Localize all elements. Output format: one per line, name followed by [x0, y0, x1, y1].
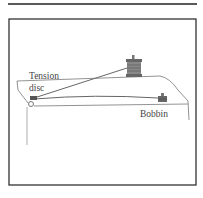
machine-bed-left — [17, 81, 28, 103]
thread-spool — [126, 55, 142, 77]
label-tension-disc-line1: Tension — [29, 71, 59, 81]
machine-bed-front-edge — [34, 104, 188, 106]
label-tension-disc-line2: disc — [29, 83, 44, 93]
bobbin — [158, 93, 167, 102]
sewing-thread-diagram: Tension disc Bobbin — [0, 0, 203, 198]
label-bobbin: Bobbin — [140, 109, 168, 119]
thread-to-bobbin — [34, 96, 158, 99]
thread-guide-ring — [29, 102, 34, 107]
figure-frame — [9, 19, 196, 185]
tension-disc — [30, 96, 37, 100]
